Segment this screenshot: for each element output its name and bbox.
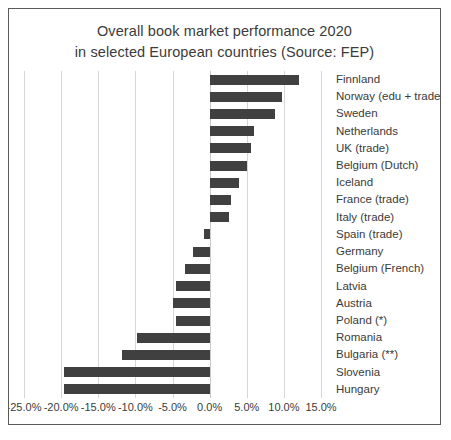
bar-row: [24, 140, 321, 157]
bar-row: [24, 88, 321, 105]
bar: [210, 212, 229, 222]
bar-row: [24, 278, 321, 295]
bar-row: [24, 157, 321, 174]
bar: [210, 109, 275, 119]
bar: [210, 75, 299, 85]
category-label: Belgium (French): [336, 260, 424, 277]
category-label: Hungary: [336, 381, 379, 398]
x-tick-label: -15.0%: [81, 401, 116, 413]
bar: [173, 298, 210, 308]
bar: [210, 143, 252, 153]
category-label: Romania: [336, 329, 382, 346]
bar: [210, 92, 282, 102]
bar-series: [24, 71, 321, 398]
category-label: France (trade): [336, 191, 409, 208]
bar: [176, 281, 209, 291]
bar: [210, 178, 240, 188]
plot-area: [24, 71, 321, 398]
bar-row: [24, 191, 321, 208]
x-tick-label: 5.0%: [234, 401, 259, 413]
bar: [176, 316, 209, 326]
category-label: Iceland: [336, 174, 373, 191]
category-label: Austria: [336, 295, 372, 312]
x-axis-tick-labels: -25.0%-20.0%-15.0%-10.0%-5.0%0.0%5.0%10.…: [24, 401, 321, 421]
bar-row: [24, 364, 321, 381]
bar: [204, 229, 210, 239]
x-tick-label: 15.0%: [305, 401, 336, 413]
category-label: Spain (trade): [336, 226, 402, 243]
category-label: Slovenia: [336, 364, 380, 381]
x-tick-label: 0.0%: [197, 401, 222, 413]
bar: [64, 384, 210, 394]
category-label: UK (trade): [336, 140, 389, 157]
category-label: Italy (trade): [336, 209, 394, 226]
x-tick-label: -20.0%: [44, 401, 79, 413]
x-tick-label: -25.0%: [8, 401, 41, 413]
category-label: Netherlands: [336, 123, 398, 140]
bar-row: [24, 295, 321, 312]
category-label: Belgium (Dutch): [336, 157, 418, 174]
bar: [185, 264, 210, 274]
x-tick-label: 10.0%: [268, 401, 299, 413]
category-label: Germany: [336, 243, 383, 260]
bar-row: [24, 243, 321, 260]
bar: [64, 367, 210, 377]
bar: [210, 126, 255, 136]
bar-row: [24, 260, 321, 277]
bar-row: [24, 123, 321, 140]
bar: [122, 350, 210, 360]
bar: [137, 333, 210, 343]
x-tick-label: -10.0%: [118, 401, 153, 413]
category-label: Norway (edu + trade): [336, 88, 441, 105]
category-label: Sweden: [336, 105, 378, 122]
category-label: Bulgaria (**): [336, 346, 398, 363]
bar: [193, 247, 210, 257]
category-label: Finnland: [336, 71, 380, 88]
x-tick-label: -5.0%: [158, 401, 187, 413]
bar-row: [24, 329, 321, 346]
bar-row: [24, 105, 321, 122]
bar-row: [24, 312, 321, 329]
bar-row: [24, 174, 321, 191]
gridline-15.0%: [321, 71, 322, 398]
bar-row: [24, 209, 321, 226]
chart-title: Overall book market performance 2020 in …: [9, 21, 440, 63]
bar-row: [24, 71, 321, 88]
bar-row: [24, 226, 321, 243]
chart-container: Overall book market performance 2020 in …: [8, 8, 441, 425]
bar-row: [24, 381, 321, 398]
category-label: Poland (*): [336, 312, 387, 329]
category-label: Latvia: [336, 278, 367, 295]
bar: [210, 195, 232, 205]
bar: [210, 161, 247, 171]
bar-row: [24, 346, 321, 363]
